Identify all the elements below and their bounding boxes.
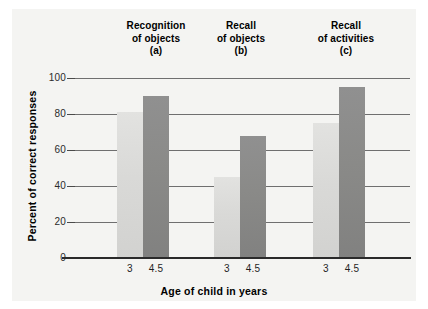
- bar-a-age4-5[interactable]: [143, 96, 169, 258]
- y-axis-title: Percent of correct responses: [26, 76, 38, 256]
- gridline-100: [75, 78, 410, 79]
- bar-label-a-age3: 3: [117, 263, 143, 274]
- bar-b-age4-5[interactable]: [240, 136, 266, 258]
- bar-a-age3[interactable]: [117, 112, 143, 258]
- bar-label-c-age3: 3: [313, 263, 339, 274]
- tick-dash-40: [67, 186, 75, 187]
- bar-chart-figure: 100 80 60 40 20 0 Recognition of objects…: [0, 0, 428, 309]
- group-title-b-line1: Recall: [198, 20, 284, 33]
- tick-dash-80: [67, 114, 75, 115]
- group-title-a-line3: (a): [108, 45, 204, 58]
- tick-dash-60: [67, 150, 75, 151]
- bar-label-b-age4-5: 4.5: [240, 263, 266, 274]
- group-title-b: Recall of objects (b): [198, 20, 284, 58]
- bar-label-c-age4-5: 4.5: [339, 263, 365, 274]
- plot-area: 100 80 60 40 20 0 Recognition of objects…: [0, 0, 428, 309]
- group-title-b-line3: (b): [198, 45, 284, 58]
- tick-dash-20: [67, 222, 75, 223]
- group-title-a-line1: Recognition: [108, 20, 204, 33]
- group-title-c: Recall of activities (c): [300, 20, 392, 58]
- group-title-a: Recognition of objects (a): [108, 20, 204, 58]
- group-title-c-line2: of activities: [300, 33, 392, 46]
- tick-dash-100: [67, 78, 75, 79]
- bar-c-age4-5[interactable]: [339, 87, 365, 258]
- group-title-c-line3: (c): [300, 45, 392, 58]
- bar-b-age3[interactable]: [214, 177, 240, 258]
- bar-label-b-age3: 3: [214, 263, 240, 274]
- group-title-c-line1: Recall: [300, 20, 392, 33]
- group-title-b-line2: of objects: [198, 33, 284, 46]
- x-axis-line: [62, 257, 411, 259]
- group-title-a-line2: of objects: [108, 33, 204, 46]
- x-axis-title: Age of child in years: [0, 285, 428, 297]
- bar-c-age3[interactable]: [313, 123, 339, 258]
- bar-label-a-age4-5: 4.5: [143, 263, 169, 274]
